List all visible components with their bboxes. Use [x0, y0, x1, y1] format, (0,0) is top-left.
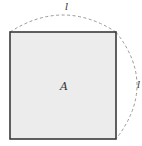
right-arc-length-label: l [137, 79, 140, 90]
square-with-arcs-diagram: A l l [0, 0, 142, 146]
square-area-label: A [59, 80, 68, 93]
right-dashed-arc [116, 32, 137, 139]
top-dashed-arc [10, 15, 116, 32]
top-arc-length-label: l [65, 1, 68, 12]
